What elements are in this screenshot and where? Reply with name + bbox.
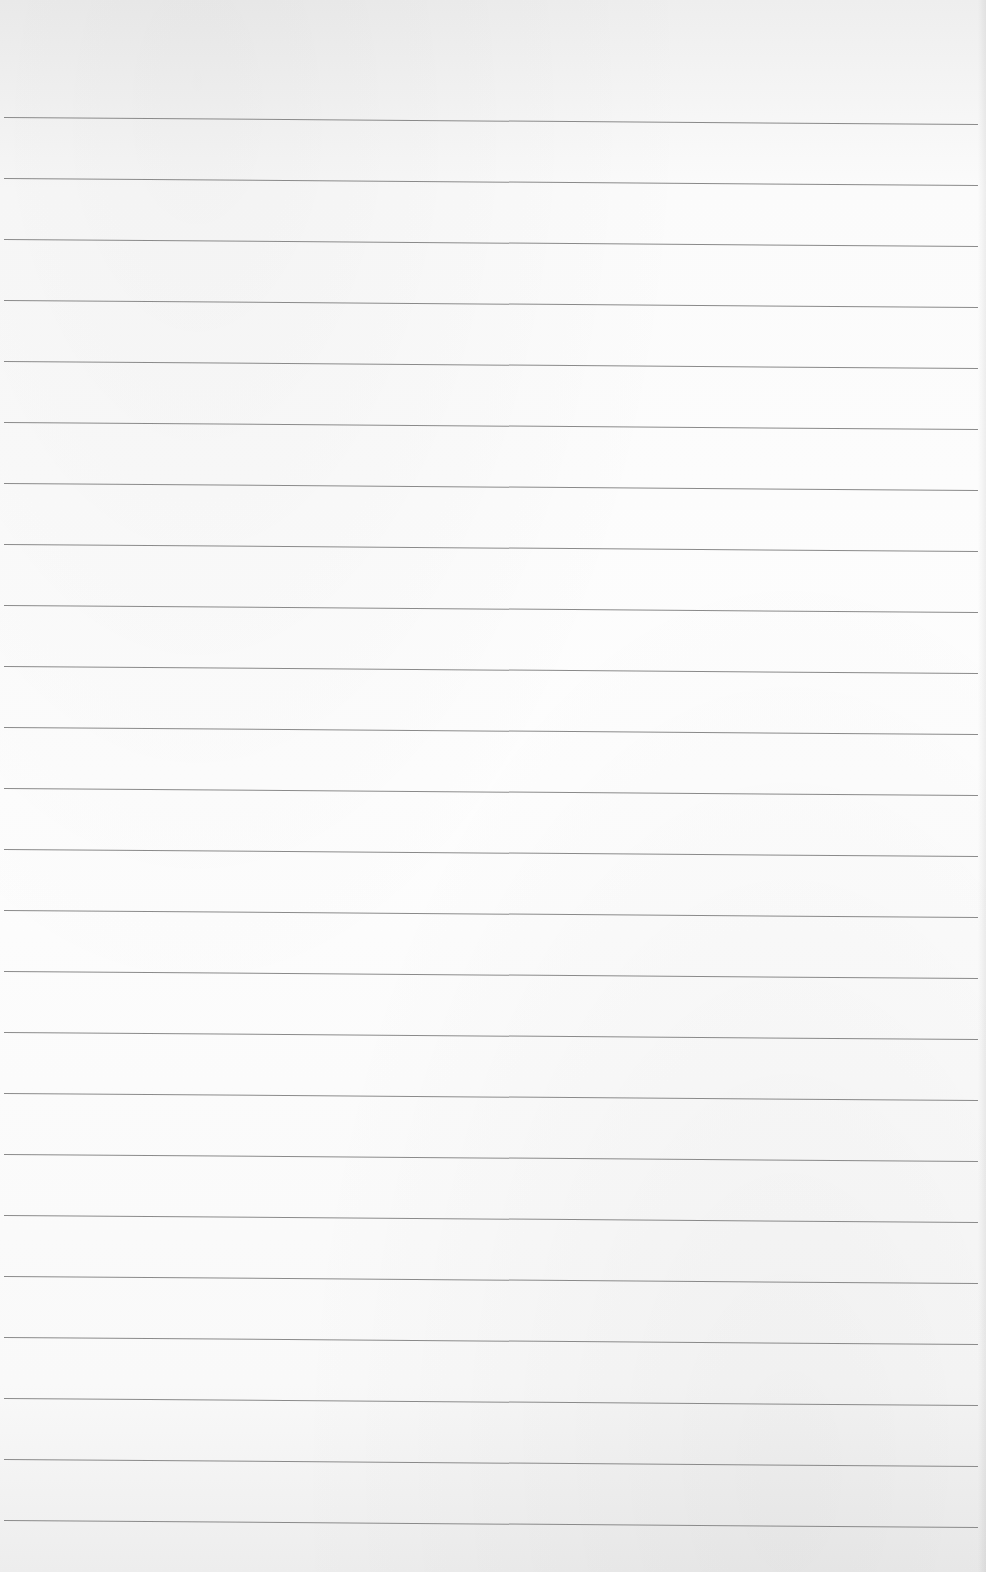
- ruled-line: [4, 483, 978, 491]
- ruled-line: [4, 1459, 978, 1467]
- ruled-line: [4, 300, 978, 308]
- ruled-line: [4, 1154, 978, 1162]
- ruled-line: [4, 971, 978, 979]
- ruled-line: [4, 849, 978, 857]
- ruled-line: [4, 1215, 978, 1223]
- paper-edge-shadow: [978, 0, 986, 1572]
- ruled-line: [4, 544, 978, 552]
- ruled-line: [4, 239, 978, 247]
- ruled-line: [4, 666, 978, 674]
- ruled-line: [4, 422, 978, 430]
- ruled-line: [4, 1032, 978, 1040]
- ruled-line: [4, 1276, 978, 1284]
- ruled-line: [4, 178, 978, 186]
- ruled-line: [4, 788, 978, 796]
- ruled-line: [4, 1093, 978, 1101]
- ruled-line: [4, 361, 978, 369]
- ruled-line: [4, 910, 978, 918]
- ruled-line: [4, 1520, 978, 1528]
- ruled-line: [4, 117, 978, 125]
- ruled-line: [4, 605, 978, 613]
- ruled-line: [4, 1398, 978, 1406]
- ruled-paper-sheet: [0, 0, 986, 1572]
- ruled-line: [4, 727, 978, 735]
- ruled-line: [4, 1337, 978, 1345]
